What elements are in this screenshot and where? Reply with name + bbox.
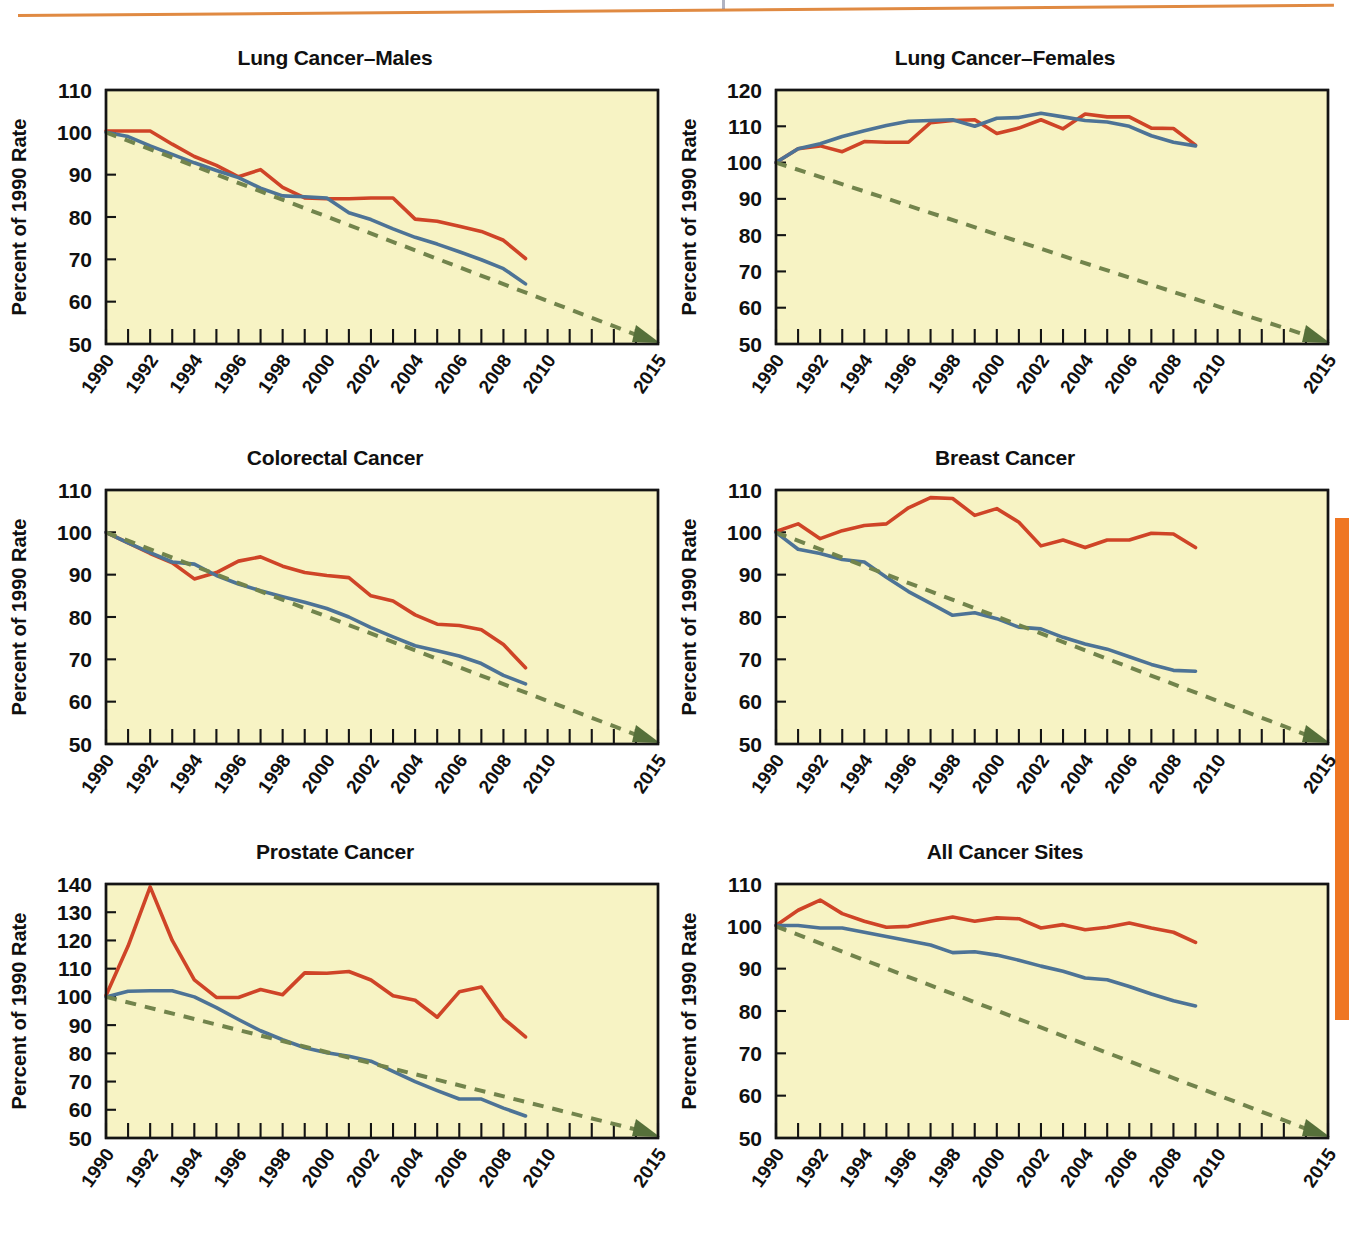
chart-panel-grid: Lung Cancer–Males 5060708090100110Percen…	[0, 36, 1340, 1236]
x-tick-label: 2002	[342, 1144, 383, 1191]
y-tick-label: 80	[69, 206, 92, 229]
plot-area	[106, 490, 658, 744]
y-tick-label: 80	[69, 1042, 92, 1065]
y-tick-label: 50	[739, 1127, 762, 1150]
chart-canvas: 5060708090100110120130140Percent of 1990…	[0, 818, 670, 1236]
x-tick-label: 1994	[835, 750, 877, 797]
plot-area	[776, 90, 1328, 344]
x-tick-label: 2006	[430, 350, 471, 397]
chart-panel-prostate-cancer: Prostate Cancer 506070809010011012013014…	[0, 818, 670, 1236]
x-tick-label: 2000	[298, 750, 339, 797]
chart-canvas: 5060708090100110Percent of 1990 Rate1990…	[670, 436, 1340, 818]
x-tick-label: 1994	[165, 350, 207, 397]
y-tick-label: 90	[739, 957, 762, 980]
x-tick-label: 1994	[835, 1144, 877, 1191]
x-tick-label: 2010	[518, 750, 559, 797]
x-tick-label: 1992	[791, 750, 832, 797]
y-tick-label: 110	[58, 957, 92, 980]
x-tick-label: 2006	[430, 1144, 471, 1191]
plot-area	[106, 90, 658, 344]
x-tick-label: 1998	[923, 1144, 964, 1191]
x-tick-label: 1992	[121, 750, 162, 797]
x-tick-label: 2004	[386, 350, 428, 397]
x-tick-label: 2008	[1144, 1144, 1185, 1191]
y-tick-label: 70	[739, 648, 762, 671]
x-tick-label: 2015	[629, 750, 670, 797]
x-tick-label: 1992	[791, 350, 832, 397]
x-tick-label: 2008	[1144, 350, 1185, 397]
x-tick-label: 2004	[1056, 1144, 1098, 1191]
y-tick-label: 50	[69, 733, 92, 756]
chart-panel-breast-cancer: Breast Cancer 5060708090100110Percent of…	[670, 436, 1340, 818]
x-tick-label: 1998	[253, 350, 294, 397]
y-tick-label: 50	[69, 1127, 92, 1150]
x-tick-label: 2000	[968, 1144, 1009, 1191]
x-tick-label: 2010	[518, 1144, 559, 1191]
x-tick-label: 1990	[77, 1144, 118, 1191]
y-tick-label: 100	[727, 521, 762, 544]
x-tick-label: 2000	[968, 350, 1009, 397]
chart-panel-lung-cancer-males: Lung Cancer–Males 5060708090100110Percen…	[0, 36, 670, 436]
x-tick-label: 2004	[386, 750, 428, 797]
x-tick-label: 2015	[1299, 750, 1340, 797]
y-tick-label: 110	[728, 873, 762, 896]
x-tick-label: 1994	[165, 750, 207, 797]
y-tick-label: 100	[57, 985, 92, 1008]
x-tick-label: 1996	[209, 350, 250, 397]
x-tick-label: 2002	[342, 750, 383, 797]
x-tick-label: 1998	[253, 750, 294, 797]
y-tick-label: 110	[58, 79, 92, 102]
x-tick-label: 1992	[791, 1144, 832, 1191]
x-tick-label: 2002	[342, 350, 383, 397]
x-tick-label: 2000	[968, 750, 1009, 797]
x-tick-label: 2015	[1299, 1144, 1340, 1191]
x-tick-label: 1996	[879, 750, 920, 797]
x-tick-label: 2006	[1100, 1144, 1141, 1191]
x-tick-label: 1996	[209, 1144, 250, 1191]
chart-canvas: 5060708090100110Percent of 1990 Rate1990…	[0, 436, 670, 818]
y-axis-label: Percent of 1990 Rate	[678, 519, 700, 716]
x-tick-label: 1994	[835, 350, 877, 397]
chart-panel-colorectal-cancer: Colorectal Cancer 5060708090100110Percen…	[0, 436, 670, 818]
x-tick-label: 2002	[1012, 1144, 1053, 1191]
y-tick-label: 70	[739, 260, 762, 283]
x-tick-label: 1990	[747, 1144, 788, 1191]
top-orange-rule	[18, 4, 1334, 17]
x-tick-label: 1998	[923, 750, 964, 797]
x-tick-label: 2015	[629, 350, 670, 397]
y-tick-label: 120	[727, 79, 762, 102]
x-tick-label: 2006	[1100, 350, 1141, 397]
x-tick-label: 2004	[386, 1144, 428, 1191]
y-tick-label: 50	[739, 333, 762, 356]
x-tick-label: 1996	[879, 350, 920, 397]
x-tick-label: 2010	[1188, 350, 1229, 397]
y-tick-label: 90	[739, 187, 762, 210]
y-tick-label: 110	[728, 479, 762, 502]
x-tick-label: 1992	[121, 1144, 162, 1191]
y-tick-label: 60	[739, 296, 762, 319]
chart-panel-all-cancer-sites: All Cancer Sites 5060708090100110Percent…	[670, 818, 1340, 1236]
y-tick-label: 110	[728, 115, 762, 138]
x-tick-label: 2006	[1100, 750, 1141, 797]
y-axis-label: Percent of 1990 Rate	[678, 913, 700, 1110]
x-tick-label: 2006	[430, 750, 471, 797]
x-tick-label: 2004	[1056, 750, 1098, 797]
y-tick-label: 120	[57, 929, 92, 952]
y-tick-label: 50	[69, 333, 92, 356]
y-tick-label: 100	[727, 151, 762, 174]
y-tick-label: 60	[739, 690, 762, 713]
x-tick-label: 2000	[298, 350, 339, 397]
y-tick-label: 60	[69, 1098, 92, 1121]
x-tick-label: 1998	[923, 350, 964, 397]
chart-canvas: 5060708090100110Percent of 1990 Rate1990…	[670, 818, 1340, 1236]
y-tick-label: 90	[69, 563, 92, 586]
y-tick-label: 100	[57, 521, 92, 544]
x-tick-label: 1996	[209, 750, 250, 797]
x-tick-label: 2015	[1299, 350, 1340, 397]
x-tick-label: 1994	[165, 1144, 207, 1191]
chart-canvas: 5060708090100110Percent of 1990 Rate1990…	[0, 36, 670, 436]
x-tick-label: 1990	[747, 750, 788, 797]
chart-panel-lung-cancer-females: Lung Cancer–Females 5060708090100110120P…	[670, 36, 1340, 436]
y-tick-label: 70	[69, 648, 92, 671]
x-tick-label: 2000	[298, 1144, 339, 1191]
